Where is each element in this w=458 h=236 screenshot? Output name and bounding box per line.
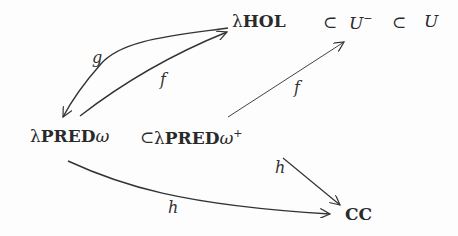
diagram-arrows bbox=[0, 0, 458, 236]
node-u-minus: U− bbox=[349, 13, 373, 32]
omega-symbol: ω bbox=[95, 126, 109, 146]
arrow-f-upper bbox=[80, 32, 227, 116]
pred-text: PRED bbox=[41, 126, 96, 146]
subset-symbol-1: ⊂ bbox=[323, 14, 337, 31]
label-h-upper: h bbox=[275, 160, 285, 176]
pred-text: PRED bbox=[165, 128, 220, 148]
label-g: g bbox=[92, 50, 102, 66]
arrow-f-right bbox=[228, 42, 344, 117]
node-lambda-hol: λHOL bbox=[232, 13, 286, 30]
node-cc: CC bbox=[345, 206, 372, 223]
subset-symbol-3: ⊂ bbox=[140, 129, 154, 146]
label-h-lower: h bbox=[168, 200, 178, 216]
arrow-h-lower bbox=[68, 161, 330, 214]
lambda-symbol: λ bbox=[30, 126, 41, 146]
minus-superscript: − bbox=[363, 12, 372, 25]
commutative-diagram: λHOL ⊂ U− ⊂ U λPREDω ⊂ λPREDω+ CC g f f … bbox=[0, 0, 458, 236]
subset-symbol-2: ⊂ bbox=[392, 14, 406, 31]
lambda-symbol: λ bbox=[232, 11, 243, 31]
node-lambda-pred-omega-plus: λPREDω+ bbox=[154, 128, 243, 147]
omega-symbol: ω bbox=[219, 128, 233, 148]
lambda-symbol: λ bbox=[154, 128, 165, 148]
node-lambda-pred-omega: λPREDω bbox=[30, 128, 109, 145]
label-f-right: f bbox=[294, 80, 300, 96]
node-u: U bbox=[424, 13, 438, 30]
label-f-upper: f bbox=[160, 72, 166, 88]
u-text: U bbox=[349, 13, 363, 33]
arrow-h-upper bbox=[283, 158, 340, 205]
hol-text: HOL bbox=[243, 11, 286, 31]
plus-superscript: + bbox=[233, 127, 242, 140]
